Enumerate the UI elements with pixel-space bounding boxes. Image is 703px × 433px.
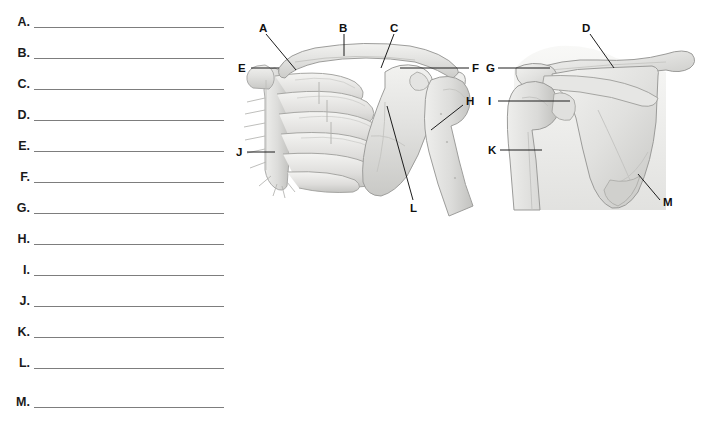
leader-line-m xyxy=(638,174,660,200)
worksheet-page: A. B. C. D. E. F. G. H. xyxy=(0,0,703,433)
answer-row-i[interactable]: I. xyxy=(10,263,224,283)
answer-row-f[interactable]: F. xyxy=(10,170,224,190)
figure-label-k: K xyxy=(488,144,496,156)
answer-line-k[interactable] xyxy=(34,337,224,338)
leader-line-h xyxy=(431,105,463,130)
answer-letter-j: J. xyxy=(10,294,30,308)
leader-line-l xyxy=(387,106,413,200)
answer-row-e[interactable]: E. xyxy=(10,139,224,159)
answer-line-f[interactable] xyxy=(34,182,224,183)
answer-line-i[interactable] xyxy=(34,275,224,276)
answer-row-j[interactable]: J. xyxy=(10,294,224,314)
anterior-shoulder-girdle-diagram: A B C E F H J L xyxy=(235,10,485,230)
leader-line-a xyxy=(266,34,296,70)
figure-label-d: D xyxy=(582,22,590,34)
answer-letter-g: G. xyxy=(10,201,30,215)
answer-row-h[interactable]: H. xyxy=(10,232,224,252)
answer-row-k[interactable]: K. xyxy=(10,325,224,345)
answer-letter-e: E. xyxy=(10,139,30,153)
answer-line-c[interactable] xyxy=(34,89,224,90)
answer-line-l[interactable] xyxy=(34,368,224,369)
answer-letter-d: D. xyxy=(10,108,30,122)
answer-letter-a: A. xyxy=(10,15,30,29)
answer-row-m[interactable]: M. xyxy=(10,395,224,415)
figure-label-j: J xyxy=(236,146,242,158)
answer-row-g[interactable]: G. xyxy=(10,201,224,221)
answer-letter-m: M. xyxy=(10,395,30,409)
figure-label-g: G xyxy=(486,62,495,74)
answer-line-b[interactable] xyxy=(34,58,224,59)
answer-letter-l: L. xyxy=(10,356,30,370)
figure-label-c: C xyxy=(390,22,398,34)
figure-label-b: B xyxy=(339,22,347,34)
answer-letter-h: H. xyxy=(10,232,30,246)
answer-line-m[interactable] xyxy=(34,407,224,408)
figure-label-i: I xyxy=(488,95,491,107)
answer-line-a[interactable] xyxy=(34,27,224,28)
leader-line-c xyxy=(381,34,394,68)
answer-letter-b: B. xyxy=(10,46,30,60)
figure-label-l: L xyxy=(410,202,417,214)
answer-list: A. B. C. D. E. F. G. H. xyxy=(0,0,232,433)
answer-letter-k: K. xyxy=(10,325,30,339)
anterior-leader-lines xyxy=(235,10,485,230)
answer-row-b[interactable]: B. xyxy=(10,46,224,66)
posterior-shoulder-diagram: D G I K M xyxy=(470,10,703,230)
answer-line-h[interactable] xyxy=(34,244,224,245)
answer-line-e[interactable] xyxy=(34,151,224,152)
answer-letter-i: I. xyxy=(10,263,30,277)
leader-line-d xyxy=(590,34,614,68)
answer-row-d[interactable]: D. xyxy=(10,108,224,128)
answer-row-c[interactable]: C. xyxy=(10,77,224,97)
answer-line-d[interactable] xyxy=(34,120,224,121)
answer-line-j[interactable] xyxy=(34,306,224,307)
figure-label-m: M xyxy=(663,196,673,208)
answer-letter-c: C. xyxy=(10,77,30,91)
answer-row-l[interactable]: L. xyxy=(10,356,224,376)
answer-row-a[interactable]: A. xyxy=(10,15,224,35)
answer-line-g[interactable] xyxy=(34,213,224,214)
figure-label-a: A xyxy=(259,22,267,34)
figure-label-e: E xyxy=(238,62,246,74)
answer-letter-f: F. xyxy=(10,170,30,184)
